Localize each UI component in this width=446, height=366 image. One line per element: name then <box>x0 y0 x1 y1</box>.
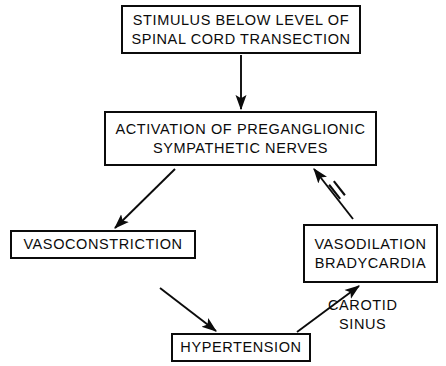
node-hypertension[interactable]: HYPERTENSION <box>171 333 311 362</box>
label-carotid-sinus-line-2: SINUS <box>328 315 397 334</box>
node-activation[interactable]: ACTIVATION OF PREGANGLIONIC SYMPATHETIC … <box>104 111 377 166</box>
node-stimulus-line-2: SPINAL CORD TRANSECTION <box>131 30 350 49</box>
diagram-canvas: STIMULUS BELOW LEVEL OF SPINAL CORD TRAN… <box>0 0 446 366</box>
edge-activation-to-vasoconstriction <box>115 169 175 228</box>
label-carotid-sinus-line-1: CAROTID <box>328 296 397 315</box>
node-vasoconstriction-line-1: VASOCONSTRICTION <box>23 235 182 254</box>
node-stimulus-line-1: STIMULUS BELOW LEVEL OF <box>133 11 349 30</box>
node-activation-line-1: ACTIVATION OF PREGANGLIONIC <box>115 120 365 139</box>
node-activation-line-2: SYMPATHETIC NERVES <box>153 139 328 158</box>
node-vasodilation[interactable]: VASODILATION BRADYCARDIA <box>303 224 438 283</box>
node-vasoconstriction[interactable]: VASOCONSTRICTION <box>10 230 196 259</box>
edge-vasodilation-inhibits-activation <box>314 169 353 219</box>
edge-vasoconstriction-to-hypertension <box>160 288 216 331</box>
node-stimulus[interactable]: STIMULUS BELOW LEVEL OF SPINAL CORD TRAN… <box>121 5 361 54</box>
node-vasodilation-line-2: BRADYCARDIA <box>315 254 426 273</box>
node-hypertension-line-1: HYPERTENSION <box>180 338 301 357</box>
label-carotid-sinus: CAROTID SINUS <box>328 296 397 334</box>
node-vasodilation-line-1: VASODILATION <box>314 235 426 254</box>
